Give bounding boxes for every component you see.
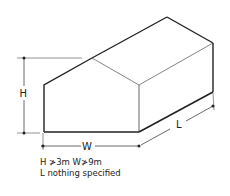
roof-ridge-left-eave	[92, 17, 167, 58]
width-label: W	[82, 141, 92, 152]
caption-line-height-width: H ≯3m W≯9m	[40, 157, 121, 168]
height-label: H	[20, 88, 28, 99]
length-tick-back	[212, 105, 215, 108]
width-tick-left	[42, 145, 45, 148]
front-gable-right-slope	[92, 58, 139, 85]
roof-right-eave	[139, 43, 213, 85]
front-gable-outline	[44, 58, 92, 132]
dimension-caption: H ≯3m W≯9m L nothing specified	[40, 157, 121, 179]
height-tick-top	[23, 57, 26, 60]
width-tick-right	[138, 145, 141, 148]
caption-line-length: L nothing specified	[40, 168, 121, 179]
length-label: L	[176, 119, 182, 130]
height-tick-bottom	[23, 132, 26, 135]
length-dimension-line-upper	[186, 106, 213, 121]
roof-back-slope	[167, 17, 213, 43]
length-dimension-line-lower	[141, 129, 170, 145]
